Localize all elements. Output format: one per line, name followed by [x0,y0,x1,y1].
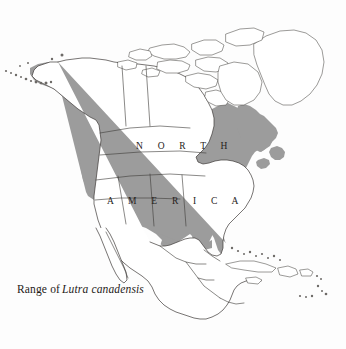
north-america-map [0,0,346,349]
caption-prefix: Range of [17,283,60,295]
map-label-north: N O R T H [136,141,234,151]
range-area-newfoundland [269,146,285,160]
figure-caption: Range ofLutra canadensis [17,283,144,295]
range-map-figure: N O R T H A M E R I C A Range ofLutra ca… [0,0,346,349]
map-label-america: A M E R I C A [107,196,245,206]
coastline-layer [5,28,327,319]
range-area-maritimes [256,158,270,169]
greenland [254,30,324,105]
caption-species-name: Lutra canadensis [60,283,144,295]
